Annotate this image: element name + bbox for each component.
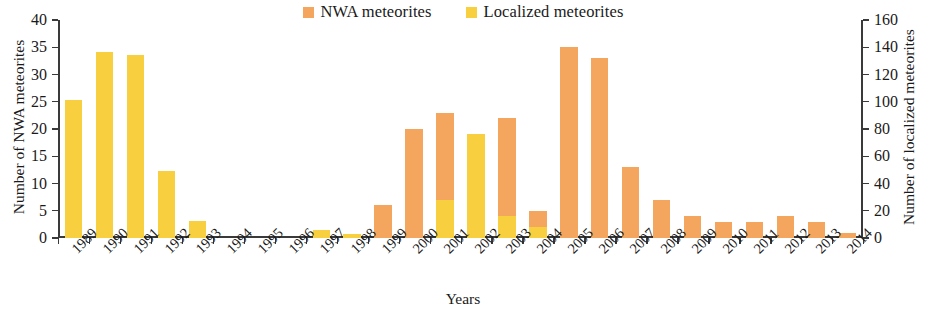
y-axis-right-title: Number of localized meteorites (900, 12, 918, 242)
y-tick-label-right: 120 (874, 67, 898, 83)
y-tick-right (863, 74, 869, 75)
bar-group (622, 167, 639, 238)
y-tick-right (863, 183, 869, 184)
y-tick-label-right: 60 (874, 148, 890, 164)
y-tick-label-right: 100 (874, 94, 898, 110)
y-tick-label-left: 5 (39, 203, 47, 219)
bar-segment-localized (467, 134, 484, 238)
y-tick-label-right: 0 (874, 230, 882, 246)
meteorite-bar-chart: NWA meteorites Localized meteorites Numb… (0, 0, 926, 310)
bar-segment-nwa (529, 211, 546, 227)
y-tick-left (52, 156, 58, 157)
legend-swatch-localized (466, 7, 477, 18)
bar-segment-nwa (436, 113, 453, 200)
y-tick-label-right: 40 (874, 176, 890, 192)
legend-label-localized: Localized meteorites (484, 4, 624, 21)
y-tick-right (863, 47, 869, 48)
bar-group (591, 58, 608, 238)
y-tick-label-left: 0 (39, 230, 47, 246)
plot-area: 0510152025303540 020406080100120140160 1… (58, 20, 863, 238)
y-tick-label-left: 35 (31, 39, 47, 55)
bar-segment-nwa (560, 47, 577, 238)
y-tick-right (863, 101, 869, 102)
bar-group (436, 113, 453, 238)
bar-segment-localized (436, 200, 453, 238)
y-tick-label-right: 20 (874, 203, 890, 219)
y-tick-left (52, 183, 58, 184)
bar-segment-localized (158, 171, 175, 238)
bar-group (467, 134, 484, 238)
x-tick (58, 238, 59, 244)
legend-entry-nwa: NWA meteorites (303, 4, 432, 21)
y-tick-right (863, 19, 869, 20)
bar-segment-localized (96, 52, 113, 238)
y-axis-left-line (58, 20, 60, 238)
y-tick-label-right: 160 (874, 12, 898, 28)
bar-group (158, 171, 175, 238)
bar-segment-nwa (653, 200, 670, 238)
bar-group (498, 118, 515, 238)
y-tick-label-right: 140 (874, 39, 898, 55)
bar-group (560, 47, 577, 238)
y-tick-left (52, 19, 58, 20)
bar-group (405, 129, 422, 238)
x-tick-label: 1995 (255, 225, 286, 256)
bar-group (653, 200, 670, 238)
bar-segment-localized (127, 55, 144, 238)
y-tick-right (863, 128, 869, 129)
y-tick-label-left: 10 (31, 176, 47, 192)
chart-legend: NWA meteorites Localized meteorites (0, 4, 926, 21)
bar-group (127, 55, 144, 238)
y-tick-left (52, 74, 58, 75)
y-axis-left-title: Number of NWA meteorites (10, 12, 28, 242)
y-tick-label-left: 25 (31, 94, 47, 110)
bar-group (96, 52, 113, 238)
y-tick-label-left: 20 (31, 121, 47, 137)
bar-segment-nwa (498, 118, 515, 216)
bar-group (65, 100, 82, 238)
legend-label-nwa: NWA meteorites (321, 4, 432, 21)
y-tick-label-left: 30 (31, 67, 47, 83)
x-axis-title: Years (0, 290, 926, 308)
x-tick-label: 2014 (844, 225, 875, 256)
bar-segment-localized (65, 100, 82, 238)
bar-segment-nwa (622, 167, 639, 238)
y-tick-left (52, 101, 58, 102)
y-tick-right (863, 210, 869, 211)
legend-swatch-nwa (303, 7, 314, 18)
bar-segment-nwa (405, 129, 422, 238)
y-tick-left (52, 47, 58, 48)
legend-entry-localized: Localized meteorites (466, 4, 624, 21)
x-tick-label: 1994 (224, 225, 255, 256)
y-tick-left (52, 128, 58, 129)
y-tick-label-right: 80 (874, 121, 890, 137)
y-tick-right (863, 156, 869, 157)
y-tick-left (52, 210, 58, 211)
bar-segment-nwa (591, 58, 608, 238)
y-tick-label-left: 15 (31, 148, 47, 164)
y-tick-label-left: 40 (31, 12, 47, 28)
